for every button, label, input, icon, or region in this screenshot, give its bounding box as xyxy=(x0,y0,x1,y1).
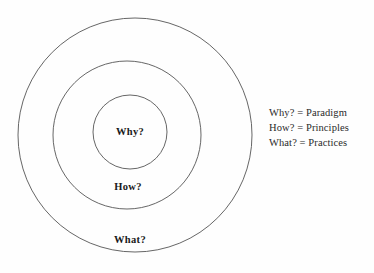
concentric-circles-diagram: Why? How? What? Why? = Paradigm How? = P… xyxy=(0,0,374,273)
legend-item-how: How? = Principles xyxy=(269,120,373,135)
outer-circle-label: What? xyxy=(114,235,146,246)
legend-item-what: What? = Practices xyxy=(269,135,373,150)
inner-circle-label: Why? xyxy=(116,127,144,138)
legend-item-why: Why? = Paradigm xyxy=(269,105,373,120)
middle-circle-label: How? xyxy=(114,182,142,193)
legend: Why? = Paradigm How? = Principles What? … xyxy=(269,105,373,151)
